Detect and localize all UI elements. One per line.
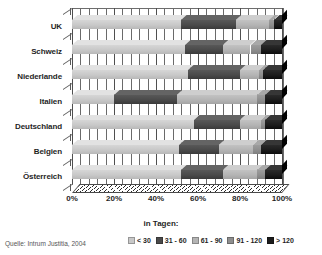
x-axis-tick-labels: 0%20%40%60%80%100% xyxy=(0,194,322,206)
bar-segment-30 xyxy=(72,20,181,29)
x-tick-label-60: 60% xyxy=(190,194,206,203)
bar-segment-61-90 xyxy=(219,145,253,154)
legend-item-31-60: 31 - 60 xyxy=(156,237,187,244)
bar-segment-61-90 xyxy=(223,170,257,179)
bar-segment-31-60 xyxy=(181,20,236,29)
bar-segment-61-90 xyxy=(236,20,270,29)
bar-segment-120 xyxy=(265,95,282,104)
bar-segment-120 xyxy=(261,45,282,54)
bar-segment-61-90 xyxy=(240,120,261,129)
legend-label: 91 - 120 xyxy=(236,237,262,244)
legend-swatch-icon xyxy=(227,237,234,244)
bar-row-deutschland xyxy=(72,120,282,129)
bar-segment-30 xyxy=(72,170,181,179)
bar-segment-61-90 xyxy=(177,95,257,104)
x-tick-label-80: 80% xyxy=(232,194,248,203)
legend-label: < 30 xyxy=(137,237,151,244)
x-axis-title: in Tagen: xyxy=(0,219,322,228)
chart-legend: < 3031 - 6061 - 9091 - 120> 120 xyxy=(128,237,294,244)
bar-row-niederlande xyxy=(72,70,282,79)
category-label-belgien: Belgien xyxy=(34,147,62,156)
category-axis-labels: UKSchweizNiederlandeItalienDeutschlandBe… xyxy=(0,8,64,184)
legend-label: 61 - 90 xyxy=(201,237,223,244)
legend-label: 31 - 60 xyxy=(165,237,187,244)
bar-segment-91-120 xyxy=(251,45,262,54)
source-note: Quelle: Intrum Justitia, 2004 xyxy=(5,240,86,247)
bar-segment-30 xyxy=(72,70,188,79)
bar-segment-120 xyxy=(263,70,282,79)
plot-area xyxy=(72,8,282,184)
bar-segment-120 xyxy=(261,145,282,154)
bar-segment-31-60 xyxy=(194,120,240,129)
x-tick-label-40: 40% xyxy=(148,194,164,203)
bar-segment-91-120 xyxy=(257,95,265,104)
bar-segment-61-90 xyxy=(223,45,250,54)
bar-segment-31-60 xyxy=(188,70,241,79)
bar-segment-30 xyxy=(72,120,194,129)
legend-item-61-90: 61 - 90 xyxy=(192,237,223,244)
legend-item-120: > 120 xyxy=(267,237,294,244)
bar-row-belgien xyxy=(72,145,282,154)
legend-swatch-icon xyxy=(267,237,274,244)
x-tick-label-100: 100% xyxy=(272,194,292,203)
bar-row-italien xyxy=(72,95,282,104)
bar-segment-31-60 xyxy=(185,45,223,54)
bar-row-schweiz xyxy=(72,45,282,54)
legend-swatch-icon xyxy=(192,237,199,244)
legend-swatch-icon xyxy=(128,237,135,244)
stacked-bar-chart: UKSchweizNiederlandeItalienDeutschlandBe… xyxy=(0,0,322,255)
category-label-niederlande: Niederlande xyxy=(17,72,62,81)
category-label-schweiz: Schweiz xyxy=(31,47,62,56)
legend-item-91-120: 91 - 120 xyxy=(227,237,262,244)
bar-segment-30 xyxy=(72,45,185,54)
bar-segment-30 xyxy=(72,145,179,154)
legend-swatch-icon xyxy=(156,237,163,244)
bar-row-uk xyxy=(72,20,282,29)
chart-floor-hatch xyxy=(72,184,290,193)
bar-segment-31-60 xyxy=(114,95,177,104)
chart-floor xyxy=(72,184,288,193)
category-label--sterreich: Österreich xyxy=(23,172,62,181)
legend-item-30: < 30 xyxy=(128,237,151,244)
bar-segment-30 xyxy=(72,95,114,104)
legend-label: > 120 xyxy=(276,237,294,244)
bar-segment-31-60 xyxy=(179,145,219,154)
bar-segment-61-90 xyxy=(240,70,259,79)
bar-segment-120 xyxy=(265,120,282,129)
bar-segment-91-120 xyxy=(257,170,265,179)
bar-rows xyxy=(72,8,282,184)
bar-row--sterreich xyxy=(72,170,282,179)
category-label-italien: Italien xyxy=(40,97,62,106)
bar-segment-31-60 xyxy=(181,170,223,179)
bar-segment-120 xyxy=(265,170,282,179)
x-tick-label-0: 0% xyxy=(66,194,78,203)
category-label-deutschland: Deutschland xyxy=(15,122,62,131)
bar-segment-91-120 xyxy=(253,145,261,154)
category-label-uk: UK xyxy=(51,22,62,31)
x-tick-label-20: 20% xyxy=(106,194,122,203)
bar-segment-120 xyxy=(274,20,282,29)
